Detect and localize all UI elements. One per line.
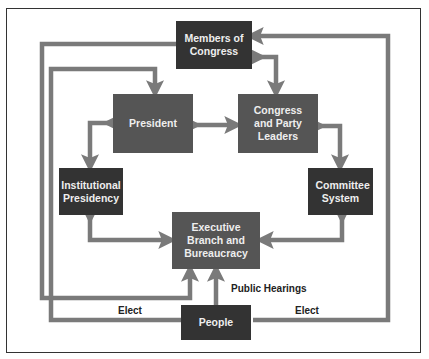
node-congress-and-party-leaders: Congress and Party Leaders xyxy=(238,94,318,153)
edge-label-public-hearings: Public Hearings xyxy=(231,283,307,294)
node-president: President xyxy=(113,94,193,153)
node-label: Congress and Party Leaders xyxy=(244,104,312,143)
node-label: Executive Branch and Bureaucracy xyxy=(180,221,252,260)
node-label: People xyxy=(199,316,233,329)
edge-label-elect-right: Elect xyxy=(295,305,319,316)
node-executive-branch-and-bureaucracy: Executive Branch and Bureaucracy xyxy=(172,212,260,269)
node-people: People xyxy=(181,305,251,340)
node-label: Committee System xyxy=(316,179,366,205)
edge-label-elect-left: Elect xyxy=(118,305,142,316)
node-label: President xyxy=(129,117,177,130)
node-label: Members of Congress xyxy=(178,32,250,58)
node-members-of-congress: Members of Congress xyxy=(176,21,252,69)
node-label: Institutional Presidency xyxy=(61,179,121,205)
node-institutional-presidency: Institutional Presidency xyxy=(59,168,123,215)
node-committee-system: Committee System xyxy=(308,168,373,215)
